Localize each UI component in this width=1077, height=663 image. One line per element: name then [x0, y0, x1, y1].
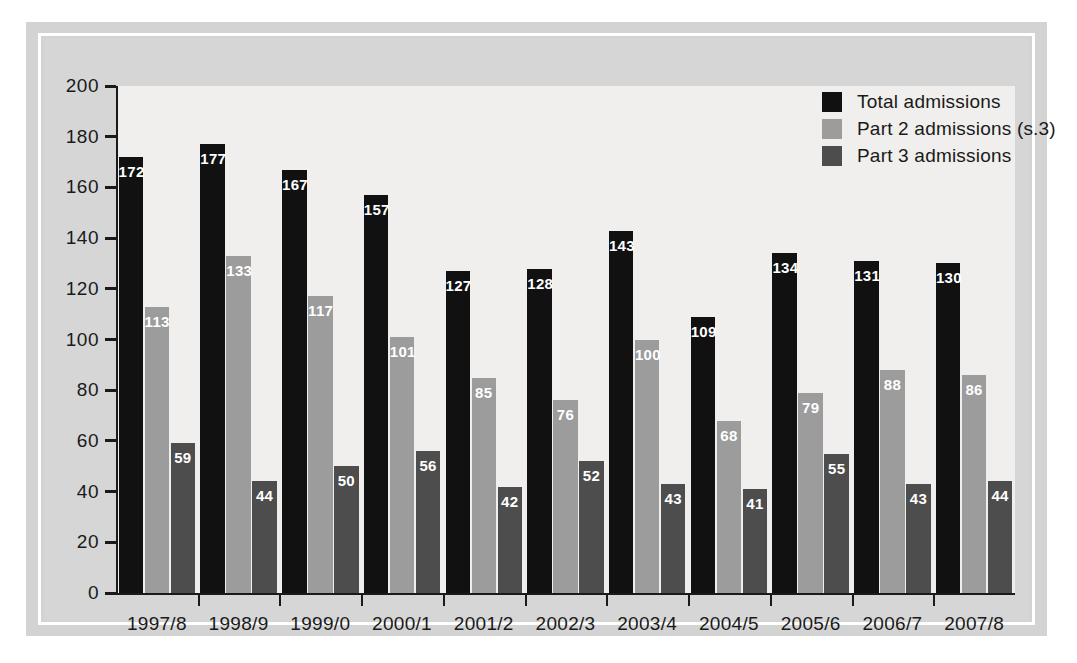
bar: 43 — [661, 484, 686, 593]
bar: 113 — [145, 307, 170, 593]
bar-value-label: 167 — [282, 177, 307, 192]
x-axis-tick-mark — [688, 595, 690, 606]
y-axis-tick-mark — [105, 490, 116, 493]
bar-value-label: 86 — [962, 382, 987, 397]
legend-item-label: Part 2 admissions (s.3) — [857, 118, 1056, 140]
bar-value-label: 117 — [308, 303, 333, 318]
bar: 43 — [906, 484, 931, 593]
x-axis-tick-mark — [852, 595, 854, 606]
y-axis-tick-mark — [105, 592, 116, 595]
bar-value-label: 113 — [145, 314, 170, 329]
y-axis-tick-mark — [105, 439, 116, 442]
bar: 100 — [635, 340, 660, 594]
y-axis-tick: 160 — [66, 176, 116, 198]
x-axis-tick-label: 2006/7 — [862, 613, 922, 635]
legend-item: Part 2 admissions (s.3) — [822, 115, 1056, 142]
bar: 76 — [553, 400, 578, 593]
bar: 157 — [364, 195, 389, 593]
bar: 127 — [446, 271, 471, 593]
y-axis-tick-mark — [105, 389, 116, 392]
bar-value-label: 50 — [334, 473, 359, 488]
x-axis-tick-label: 1999/0 — [290, 613, 350, 635]
x-axis-tick-label: 2007/8 — [944, 613, 1004, 635]
bar-value-label: 177 — [200, 151, 225, 166]
bar: 56 — [416, 451, 441, 593]
bar: 172 — [119, 157, 144, 593]
y-axis-tick: 40 — [77, 481, 116, 503]
bar: 130 — [936, 263, 961, 593]
bar-value-label: 43 — [661, 491, 686, 506]
y-axis-tick-mark — [105, 85, 116, 88]
x-axis-tick-label: 2004/5 — [699, 613, 759, 635]
bar: 133 — [226, 256, 251, 593]
bar: 88 — [880, 370, 905, 593]
bar-value-label: 79 — [798, 400, 823, 415]
x-axis-tick-mark — [525, 595, 527, 606]
bar: 41 — [743, 489, 768, 593]
y-axis-tick: 80 — [77, 379, 116, 401]
legend-item-label: Part 3 admissions — [857, 145, 1011, 167]
y-axis-tick-mark — [105, 287, 116, 290]
y-axis-tick: 0 — [88, 582, 116, 604]
x-axis-tick-label: 2001/2 — [454, 613, 514, 635]
y-axis-tick-label: 80 — [77, 379, 99, 401]
bar-value-label: 143 — [609, 238, 634, 253]
x-axis-tick-label: 2005/6 — [781, 613, 841, 635]
bar-value-label: 127 — [446, 278, 471, 293]
chart-legend: Total admissionsPart 2 admissions (s.3)P… — [822, 88, 1056, 169]
y-axis-tick: 200 — [66, 75, 116, 97]
y-axis-tick-mark — [105, 541, 116, 544]
bar-value-label: 134 — [772, 260, 797, 275]
y-axis-tick-mark — [105, 135, 116, 138]
bar-value-label: 101 — [390, 344, 415, 359]
bar: 177 — [200, 144, 225, 593]
bar: 68 — [717, 421, 742, 593]
chart-panel: 0204060801001201401601802001721135917713… — [44, 38, 1029, 621]
bar: 44 — [988, 481, 1013, 593]
legend-item-label: Total admissions — [857, 91, 1001, 113]
bar-value-label: 88 — [880, 377, 905, 392]
bar: 167 — [282, 170, 307, 593]
bar-value-label: 44 — [252, 488, 277, 503]
bar-value-label: 109 — [691, 324, 716, 339]
bar-value-label: 56 — [416, 458, 441, 473]
bar: 52 — [579, 461, 604, 593]
x-axis-tick-mark — [770, 595, 772, 606]
bar-value-label: 52 — [579, 468, 604, 483]
x-axis-tick-label: 2003/4 — [617, 613, 677, 635]
y-axis-tick-mark — [105, 186, 116, 189]
bar-value-label: 55 — [824, 461, 849, 476]
bar-value-label: 157 — [364, 202, 389, 217]
x-axis-tick-mark — [279, 595, 281, 606]
y-axis-tick: 20 — [77, 531, 116, 553]
x-axis-tick-mark — [606, 595, 608, 606]
bar-value-label: 85 — [472, 385, 497, 400]
x-axis-line — [116, 593, 1015, 595]
bar-value-label: 131 — [854, 268, 879, 283]
x-axis-tick-label: 1997/8 — [127, 613, 187, 635]
bar: 134 — [772, 253, 797, 593]
x-axis-tick-mark — [198, 595, 200, 606]
bar: 59 — [171, 443, 196, 593]
bar: 117 — [308, 296, 333, 593]
bar: 50 — [334, 466, 359, 593]
y-axis-tick-label: 40 — [77, 481, 99, 503]
bar: 42 — [498, 487, 523, 593]
y-axis-tick: 140 — [66, 227, 116, 249]
bar-value-label: 172 — [119, 164, 144, 179]
bar-value-label: 130 — [936, 270, 961, 285]
y-axis-tick-mark — [105, 237, 116, 240]
x-axis-tick-label: 2002/3 — [536, 613, 596, 635]
bar: 44 — [252, 481, 277, 593]
bar: 131 — [854, 261, 879, 593]
y-axis-tick: 100 — [66, 329, 116, 351]
y-axis-tick: 60 — [77, 430, 116, 452]
y-axis-tick: 120 — [66, 278, 116, 300]
bar-value-label: 68 — [717, 428, 742, 443]
bar: 143 — [609, 231, 634, 594]
bar-value-label: 59 — [171, 450, 196, 465]
bar-value-label: 100 — [635, 347, 660, 362]
bar-value-label: 43 — [906, 491, 931, 506]
y-axis-tick-label: 0 — [88, 582, 99, 604]
bar: 86 — [962, 375, 987, 593]
